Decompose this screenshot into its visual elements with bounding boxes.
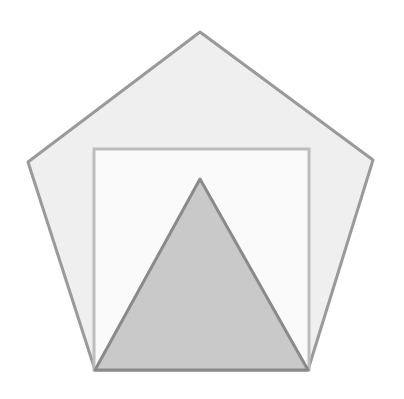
shapes-svg — [0, 0, 404, 399]
geometric-diagram — [0, 0, 404, 399]
